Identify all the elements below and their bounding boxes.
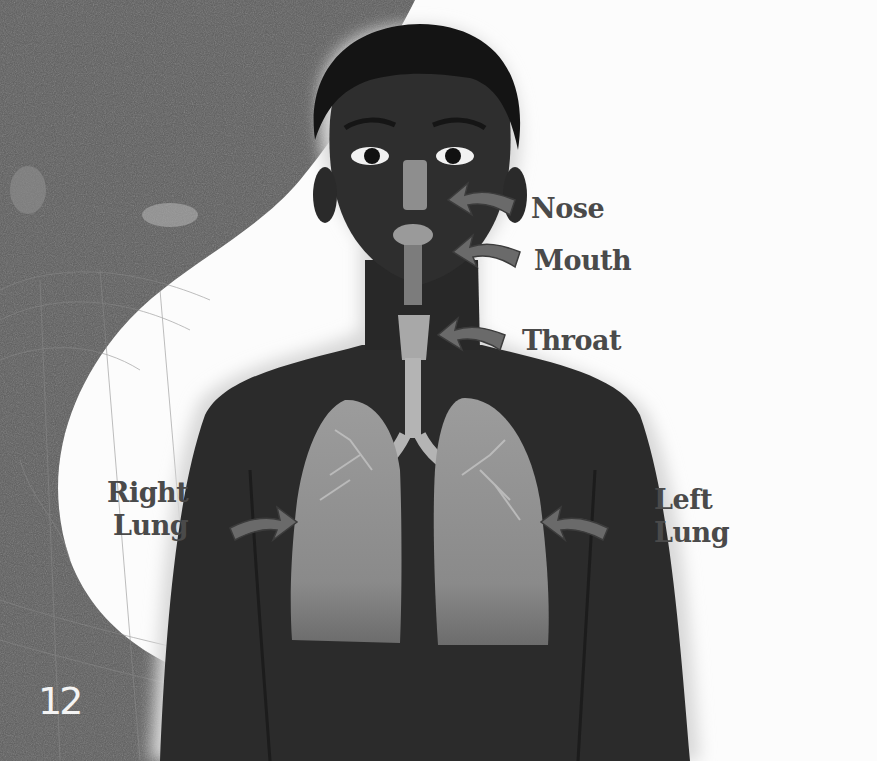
mouth-cavity xyxy=(393,224,433,246)
label-throat: Throat xyxy=(522,324,621,357)
trachea xyxy=(405,358,421,438)
respiratory-system-figure xyxy=(0,0,877,761)
page-number: 12 xyxy=(38,681,80,721)
label-left-lung: Left Lung xyxy=(654,483,729,549)
label-right-lung: Right Lung xyxy=(107,476,188,542)
pharynx xyxy=(404,245,422,305)
nasal-cavity xyxy=(403,160,427,210)
boy-body xyxy=(160,24,690,761)
textbook-page: Nose Mouth Throat Right Lung Left Lung 1… xyxy=(0,0,877,761)
label-nose: Nose xyxy=(531,192,604,225)
larynx xyxy=(398,315,430,360)
label-mouth: Mouth xyxy=(534,244,631,277)
